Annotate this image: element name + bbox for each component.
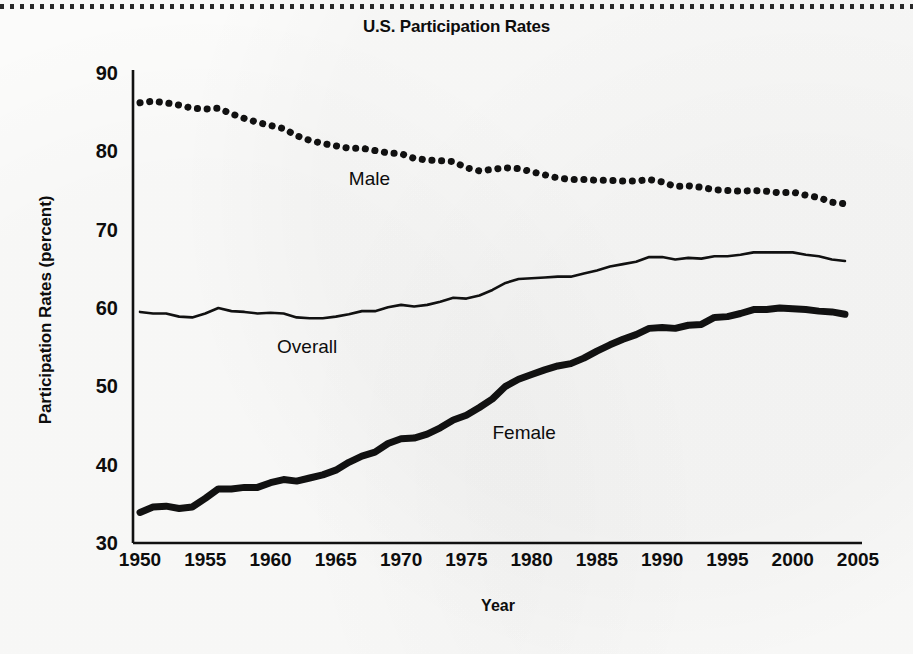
series-line-male	[140, 101, 845, 204]
x-tick-label: 1980	[497, 550, 567, 569]
figure-page: U.S. Participation Rates Participation R…	[0, 0, 913, 654]
x-axis-title: Year	[133, 597, 863, 615]
x-tick-label: 2000	[758, 550, 828, 569]
series-line-female	[140, 308, 845, 512]
series-lines	[140, 101, 845, 512]
x-tick-label: 1950	[105, 550, 175, 569]
series-label-overall: Overall	[277, 336, 337, 358]
x-tick-label: 1960	[236, 550, 306, 569]
x-tick-label: 1985	[562, 550, 632, 569]
series-label-male: Male	[349, 168, 390, 190]
x-tick-label: 1995	[692, 550, 762, 569]
x-tick-label: 1970	[366, 550, 436, 569]
x-tick-label: 1965	[301, 550, 371, 569]
x-tick-label: 1990	[627, 550, 697, 569]
x-tick-label: 1955	[170, 550, 240, 569]
series-label-female: Female	[492, 422, 555, 444]
x-tick-label: 1975	[431, 550, 501, 569]
series-line-overall	[140, 252, 845, 318]
x-tick-label: 2005	[823, 550, 893, 569]
